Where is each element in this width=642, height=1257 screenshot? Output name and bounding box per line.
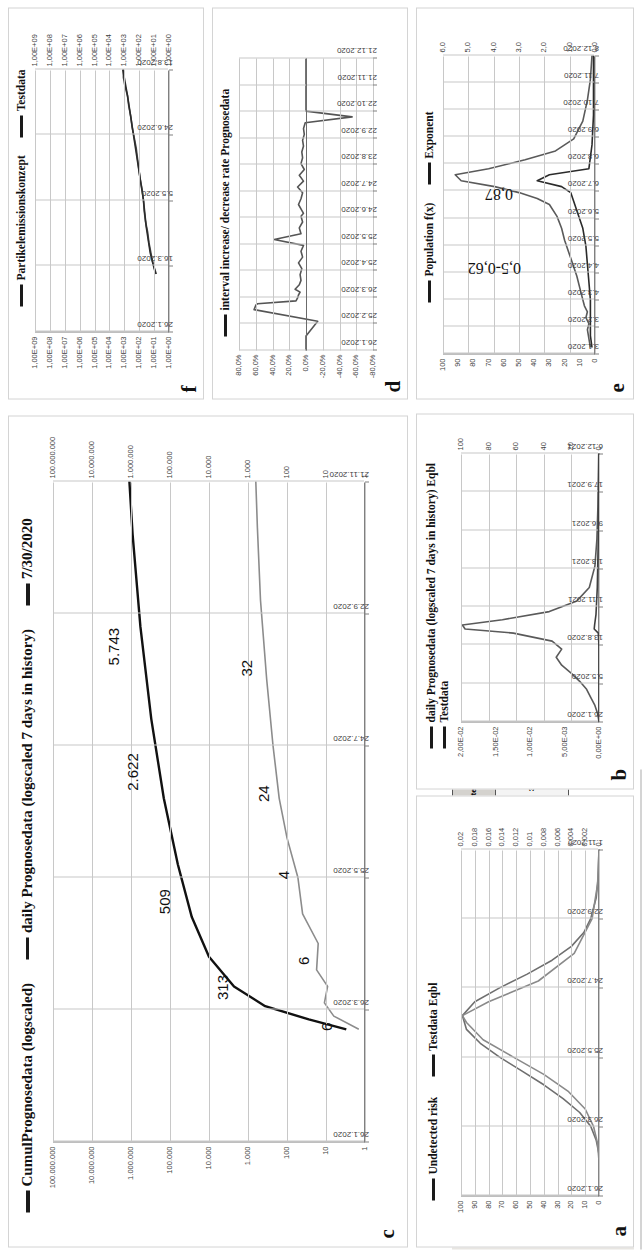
x-tick-label: 24.7.2020 [567, 975, 603, 984]
y-tick-label: 3,0 [514, 42, 523, 52]
chart-f-plot [35, 70, 169, 332]
y-tick-label: 1 [360, 1146, 369, 1246]
x-tick-label: 5.5.2020 [568, 233, 599, 242]
chart-f-letter: f [177, 385, 202, 392]
x-tick-mark [599, 453, 603, 454]
chart-c-panel: cCumulPrognosedata (logscaled)daily Prog… [8, 415, 408, 1247]
x-tick-mark [599, 849, 603, 850]
y-tick-label: 10 [321, 1146, 330, 1246]
y-tick-label: 80 [484, 442, 493, 450]
x-tick-mark [373, 163, 377, 164]
x-tick-mark [365, 745, 369, 746]
gridline-horizontal [323, 58, 324, 350]
legend-swatch [432, 1054, 435, 1076]
gridline-horizontal [519, 56, 520, 353]
legend-swatch [20, 115, 23, 137]
x-tick-mark [373, 84, 377, 85]
x-tick-label: 16.3.2020 [137, 254, 173, 263]
x-tick-mark [373, 243, 377, 244]
y-tick-label: 1,00E+07 [60, 34, 69, 66]
x-tick-label: 26.3.2020 [341, 284, 377, 293]
chart-c-legend-1: daily Prognosedata (logscaled 7 days in … [19, 629, 36, 933]
y-tick-label: 10.000.000 [87, 1146, 96, 1246]
y-tick-label: 1.000 [243, 1146, 252, 1246]
y-tick-label: 1.000.000 [126, 445, 135, 478]
x-tick-mark [365, 1141, 369, 1142]
gridline-horizontal [443, 56, 444, 353]
legend-swatch [26, 1190, 30, 1212]
x-tick-mark [169, 69, 173, 70]
y-tick-label: 0 [594, 1200, 603, 1246]
x-tick-mark [595, 326, 599, 327]
gridline-horizontal [139, 70, 140, 331]
chart-b-legend: daily Prognosedata (logscaled 7 days in … [425, 462, 450, 748]
gridline-horizontal [109, 70, 110, 331]
x-tick-label: 22.9.2020 [333, 601, 369, 610]
y-tick-label: 10.000.000 [87, 440, 96, 478]
chart-b-plot [461, 454, 599, 722]
chart-c-data-label: 313 [214, 974, 231, 999]
x-tick-mark [599, 683, 603, 684]
x-tick-mark [599, 1057, 603, 1058]
y-tick-label: 100.000.000 [48, 436, 57, 478]
gridline-horizontal [494, 56, 495, 353]
screenshot-root: Alaska Alaska IntervalNo 5,0 Interval in… [0, 0, 642, 1257]
x-tick-label: 8.12.2020 [563, 43, 599, 52]
x-tick-mark [595, 272, 599, 273]
gridline-horizontal [475, 850, 476, 1195]
gridline-horizontal [35, 70, 36, 331]
y-tick-label: 80 [468, 358, 477, 398]
chart-b-letter: b [607, 768, 632, 780]
y-tick-label: 0,008 [539, 827, 548, 846]
x-tick-mark [365, 613, 369, 614]
gridline-horizontal [287, 482, 288, 1141]
y-tick-label: 0,016 [484, 827, 493, 846]
x-tick-mark [365, 1009, 369, 1010]
x-tick-mark [599, 530, 603, 531]
x-tick-mark [595, 136, 599, 137]
y-tick-label: 100.000.000 [48, 1146, 57, 1246]
x-tick-label: 3.1.2020 [568, 341, 599, 350]
y-tick-label: 20 [560, 358, 569, 398]
gridline-horizontal [516, 454, 517, 721]
y-tick-label: 0 [590, 358, 599, 398]
gridline-vertical [461, 605, 598, 606]
gridline-horizontal [468, 56, 469, 353]
y-tick-label: 1,00E+00 [164, 336, 173, 398]
y-tick-label: -60,0% [351, 354, 360, 398]
x-tick-label: 1.3.2021 [572, 556, 603, 565]
gridline-horizontal [256, 58, 257, 350]
x-tick-label: 24.6.2020 [341, 204, 377, 213]
x-tick-label: 26.3.2020 [567, 1114, 603, 1123]
gridline-horizontal [571, 850, 572, 1195]
y-tick-label: 60 [499, 358, 508, 398]
x-tick-mark [373, 322, 377, 323]
x-tick-label: 24.7.2020 [333, 733, 369, 742]
gridline-horizontal [65, 70, 66, 331]
gridline-horizontal [50, 70, 51, 331]
x-tick-mark [373, 216, 377, 217]
y-tick-label: 0,02 [456, 831, 465, 846]
chart-c-plot [53, 482, 365, 1142]
chart-c-data-label: 24 [255, 785, 272, 802]
y-tick-label: 1,00E+09 [30, 336, 39, 398]
x-tick-mark [595, 82, 599, 83]
gridline-vertical [35, 264, 168, 265]
gridline-horizontal [461, 850, 462, 1195]
x-tick-mark [599, 606, 603, 607]
x-tick-mark [599, 491, 603, 492]
y-tick-label: 100 [456, 1200, 465, 1246]
gridline-horizontal [544, 850, 545, 1195]
chart-e-annotation-1: 0,5-0,62 [468, 258, 521, 276]
x-tick-label: 7.10.2020 [563, 97, 599, 106]
gridline-horizontal [502, 850, 503, 1195]
y-tick-label: 70 [497, 1200, 506, 1246]
gridline-horizontal [80, 70, 81, 331]
y-tick-label: 1.000 [243, 459, 252, 478]
x-tick-mark [365, 481, 369, 482]
y-tick-label: 40 [539, 1200, 548, 1246]
gridline-horizontal [365, 482, 366, 1141]
gridline-horizontal [239, 58, 240, 350]
x-tick-label: 25.4.2020 [341, 257, 377, 266]
y-tick-label: 1,00E+08 [45, 336, 54, 398]
